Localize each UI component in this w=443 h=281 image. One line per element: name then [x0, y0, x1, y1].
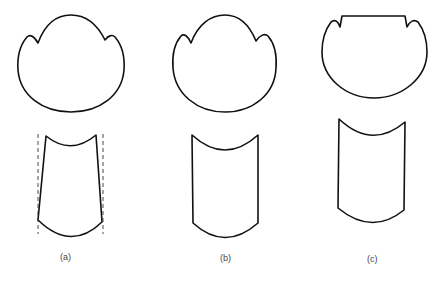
panel-b-label: (b)	[220, 253, 231, 263]
panel-a-label: (a)	[60, 252, 71, 262]
panel-c-top-profile	[322, 16, 427, 98]
panel-b-top-profile	[173, 15, 276, 112]
panel-a-top-profile	[18, 15, 124, 112]
panel-a-bottom-section	[38, 135, 102, 237]
panel-c-label: (c)	[367, 254, 378, 264]
panel-b-bottom-section	[192, 135, 258, 238]
figure-canvas	[0, 0, 443, 281]
panel-c-bottom-section	[338, 119, 405, 223]
